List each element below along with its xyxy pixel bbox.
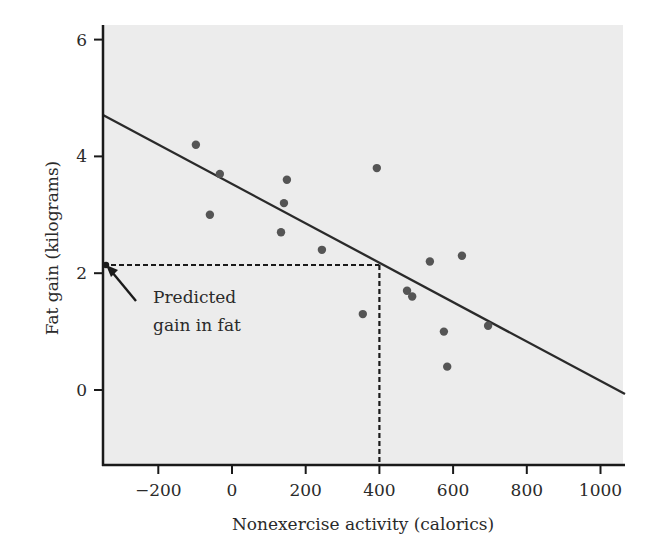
x-tick-label: 0	[227, 480, 238, 500]
data-point	[484, 322, 492, 330]
x-tick-label: 400	[363, 480, 395, 500]
data-point	[277, 228, 285, 236]
data-point	[408, 292, 416, 300]
annotation-line-1: Predicted	[153, 287, 236, 307]
data-point	[440, 327, 448, 335]
data-point	[283, 176, 291, 184]
data-point	[280, 199, 288, 207]
data-point	[192, 141, 200, 149]
x-tick-label: 600	[437, 480, 469, 500]
x-tick-label: 200	[289, 480, 321, 500]
x-tick-label: 1000	[579, 480, 622, 500]
y-tick-label: 0	[76, 380, 87, 400]
data-point	[458, 251, 466, 259]
data-point	[426, 257, 434, 265]
y-axis-ticks: 0246	[76, 30, 103, 400]
y-tick-label: 6	[76, 30, 87, 50]
x-axis-ticks: −20002004006008001000	[135, 465, 622, 500]
y-tick-label: 4	[76, 146, 87, 166]
data-point	[373, 164, 381, 172]
data-point	[206, 211, 214, 219]
data-point	[216, 170, 224, 178]
y-axis-title: Fat gain (kilograms)	[42, 161, 62, 335]
data-point	[359, 310, 367, 318]
scatter-chart: 0246 −20002004006008001000 Nonexercise a…	[0, 0, 665, 555]
x-tick-label: −200	[135, 480, 182, 500]
annotation-line-2: gain in fat	[153, 315, 241, 335]
data-point	[443, 362, 451, 370]
data-point	[318, 246, 326, 254]
x-axis-title: Nonexercise activity (calorics)	[232, 514, 494, 534]
x-tick-label: 800	[511, 480, 543, 500]
y-tick-label: 2	[76, 263, 87, 283]
plot-background	[103, 25, 623, 465]
